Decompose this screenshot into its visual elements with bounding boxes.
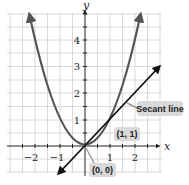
y-axis-label: y (82, 0, 90, 12)
x-tick-label: −1 (50, 152, 65, 163)
point-b-label: (1, 1) (116, 129, 137, 139)
secant-line-figure: −2 −1 1 2 1 2 3 4 x y Secant line (1, 1)… (0, 0, 189, 185)
y-tick-label: 2 (74, 88, 80, 99)
x-tick-label: 2 (132, 152, 138, 163)
point-a-callout-leader (86, 148, 94, 163)
y-tick-label: 4 (74, 35, 80, 46)
y-tick-label: 1 (74, 115, 80, 126)
secant-line-label: Secant line (136, 104, 184, 114)
point-a-label: (0, 0) (92, 165, 113, 175)
y-tick-label: 3 (74, 61, 80, 72)
x-tick-label: 1 (107, 152, 113, 163)
x-axis-label: x (164, 140, 171, 153)
x-tick-label: −2 (24, 152, 39, 163)
